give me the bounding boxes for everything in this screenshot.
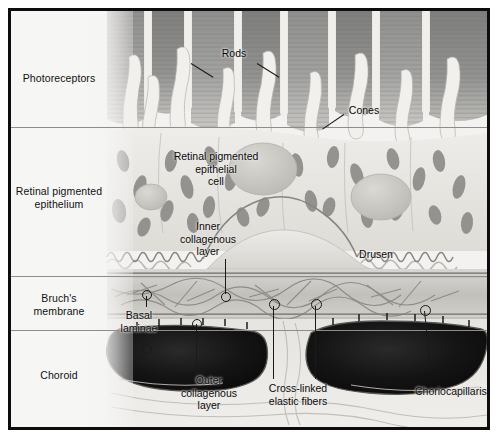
callout-cones: Cones	[338, 104, 390, 117]
leader-dot-outer-collagenous-layer	[192, 319, 202, 329]
divider-photoreceptors-rpe	[11, 127, 487, 128]
layer-label-photoreceptors: Photoreceptors	[11, 72, 107, 85]
callout-outer-collagenous-layer: Outer collagenous layer	[167, 374, 251, 412]
layer-label-retinal-pigmented-epithelium: Retinal pigmented epithelium	[11, 185, 107, 211]
leader-dot-cross-linked-elastic-fibers-right	[311, 299, 322, 310]
leader-dot-inner-collagenous-layer	[221, 292, 231, 302]
leader-cross-linked-elastic-fibers-right	[315, 306, 316, 379]
leader-dot-choriocapillaris	[420, 305, 431, 316]
leader-outer-collagenous-layer	[196, 324, 197, 372]
leader-dot-cross-linked-elastic-fibers-left	[269, 299, 280, 310]
leader-cross-linked-elastic-fibers-left	[273, 306, 274, 379]
callout-rods: Rods	[206, 47, 262, 60]
leader-dot-basal-lamina-lower	[142, 344, 152, 354]
layer-label-bruchs-membrane: Bruch's membrane	[11, 292, 107, 318]
callout-drusen: Drusen	[345, 248, 407, 261]
callout-choriocapillaris: Choriocapillaris	[415, 385, 490, 398]
divider-bruchs-choroid	[11, 330, 487, 331]
divider-rpe-bruchs	[11, 276, 487, 277]
callout-basal-laminae: Basal laminae	[107, 309, 171, 334]
callout-inner-collagenous-layer: Inner collagenous layer	[167, 220, 249, 258]
callout-cross-linked-elastic-fibers: Cross-linked elastic fibers	[250, 382, 346, 407]
callout-retinal-pigmented-epithelial-cell: Retinal pigmented epithelial cell	[157, 150, 275, 188]
leader-dot-basal-lamina-upper	[142, 290, 152, 300]
leader-inner-collagenous-layer	[225, 259, 226, 294]
layer-label-choroid: Choroid	[11, 369, 107, 382]
retina-histology-figure: Photoreceptors Retinal pigmented epithel…	[8, 8, 490, 430]
